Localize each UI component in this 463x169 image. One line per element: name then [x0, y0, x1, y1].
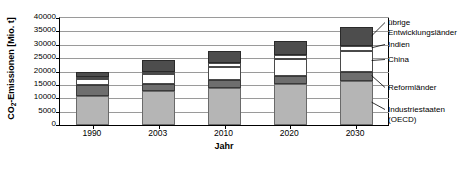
legend-label-line1: Reformländer [388, 83, 436, 93]
legend-item: Industriestaaten(OECD) [388, 105, 445, 124]
legend-label-line1: China [388, 55, 409, 65]
bar-segment[interactable] [274, 41, 307, 55]
bar-segment[interactable] [274, 76, 307, 85]
y-tick-label: 40000 [34, 13, 56, 21]
y-tick-label: 15000 [34, 80, 56, 88]
x-axis-tick-labels: 19902003201020202030 [59, 128, 389, 140]
y-tick-label: 5000 [38, 107, 56, 115]
bar-segment[interactable] [340, 51, 373, 72]
bar-segment[interactable] [340, 46, 373, 51]
y-tick-mark [56, 58, 60, 59]
bar-segment[interactable] [208, 67, 241, 81]
bar-segment[interactable] [340, 81, 373, 125]
bar-segment[interactable] [340, 72, 373, 82]
x-tick-label: 2010 [214, 128, 233, 138]
bar-segment[interactable] [208, 88, 241, 125]
y-tick-mark [56, 125, 60, 126]
bar-segment[interactable] [208, 80, 241, 87]
bar-2010[interactable] [208, 51, 241, 125]
bar-segment[interactable] [76, 72, 109, 77]
bar-2020[interactable] [274, 41, 307, 125]
bar-segment[interactable] [142, 91, 175, 125]
y-axis-title-main: CO [6, 106, 16, 120]
bar-segment[interactable] [208, 51, 241, 63]
y-axis-tick-labels: 0500010000150002000025000300003500040000 [16, 12, 56, 128]
y-tick-mark [56, 112, 60, 113]
chart-legend: übrigeEntwicklungsländerIndienChinaRefor… [388, 10, 463, 135]
legend-label-line2: Entwicklungsländer [388, 28, 457, 38]
plot-inner [60, 18, 389, 125]
y-tick-mark [56, 85, 60, 86]
bar-segment[interactable] [142, 84, 175, 91]
plot-area [59, 17, 389, 125]
bar-segment[interactable] [76, 79, 109, 85]
legend-label-line1: Indien [388, 40, 410, 50]
bar-segment[interactable] [142, 60, 175, 72]
bar-2003[interactable] [142, 60, 175, 125]
y-tick-label: 30000 [34, 40, 56, 48]
y-tick-mark [56, 98, 60, 99]
bar-segment[interactable] [274, 59, 307, 76]
bar-segment[interactable] [142, 74, 175, 84]
y-axis-title-rest: -Emissionen [Mio. t] [6, 17, 16, 103]
y-tick-label: 25000 [34, 53, 56, 61]
bar-segment[interactable] [274, 55, 307, 59]
bar-segment[interactable] [340, 27, 373, 46]
legend-label-line2: (OECD) [388, 115, 445, 125]
y-tick-mark [56, 31, 60, 32]
bar-segment[interactable] [76, 96, 109, 125]
y-tick-mark [56, 72, 60, 73]
bar-2030[interactable] [340, 27, 373, 125]
bar-segment[interactable] [76, 85, 109, 96]
y-tick-mark [56, 18, 60, 19]
chart-figure: CO2-Emissionen [Mio. t] 0500010000150002… [0, 0, 463, 169]
bar-segment[interactable] [142, 72, 175, 74]
legend-label-line1: übrige [388, 18, 457, 28]
x-tick-label: 2030 [346, 128, 365, 138]
legend-item: Reformländer [388, 83, 436, 93]
y-tick-label: 10000 [34, 93, 56, 101]
legend-item: China [388, 55, 409, 65]
x-tick-label: 1990 [82, 128, 101, 138]
x-tick-label: 2003 [148, 128, 167, 138]
x-tick-label: 2020 [280, 128, 299, 138]
y-tick-label: 35000 [34, 26, 56, 34]
legend-item: übrigeEntwicklungsländer [388, 18, 457, 37]
bar-segment[interactable] [274, 84, 307, 125]
y-tick-mark [56, 45, 60, 46]
legend-item: Indien [388, 40, 410, 50]
legend-label-line1: Industriestaaten [388, 105, 445, 115]
x-axis-title: Jahr [59, 141, 389, 151]
bar-1990[interactable] [76, 72, 109, 125]
y-tick-label: 20000 [34, 67, 56, 75]
bar-segment[interactable] [208, 63, 241, 66]
y-tick-label: 0 [52, 120, 56, 128]
